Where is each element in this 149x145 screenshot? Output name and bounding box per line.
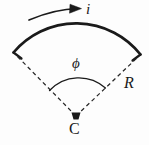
arc-left-endcap [14,53,22,59]
thick-conductor-arc [14,23,141,54]
center-label: C [69,121,80,137]
current-label: i [86,2,90,17]
angle-indicator-arc [50,78,106,91]
left-radius-dashed-line [16,55,77,117]
angle-label-phi: ϕ [72,56,80,71]
center-point-marker [72,113,81,120]
radius-label: R [124,75,134,91]
arc-right-endcap [133,55,141,61]
center-point-dot [72,113,81,120]
current-arrow-head [70,4,82,13]
arc-current-figure: i ϕ R C [0,0,149,145]
current-direction-arrow [29,4,82,20]
